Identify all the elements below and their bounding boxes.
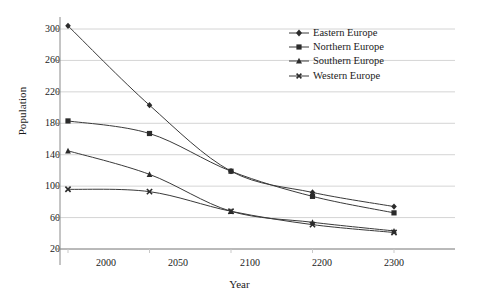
- legend-label: Western Europe: [313, 69, 380, 83]
- legend-marker-cross-icon: [288, 70, 310, 82]
- series-line-southern-europe: [68, 151, 394, 231]
- data-point-southern-europe: [147, 171, 153, 177]
- chart-legend: Eastern Europe Northern Europe Southern …: [288, 26, 384, 83]
- legend-marker-triangle-icon: [288, 55, 310, 67]
- legend-item-eastern-europe: Eastern Europe: [288, 26, 384, 40]
- legend-marker-square-icon: [288, 41, 310, 53]
- data-point-northern-europe: [228, 169, 233, 174]
- legend-label: Northern Europe: [313, 40, 384, 54]
- data-point-northern-europe: [310, 194, 315, 199]
- data-point-eastern-europe: [391, 203, 397, 209]
- legend-item-southern-europe: Southern Europe: [288, 54, 384, 68]
- data-point-northern-europe: [391, 210, 396, 215]
- legend-item-northern-europe: Northern Europe: [288, 40, 384, 54]
- population-line-chart: Population Year 300 260 220 180 140 100 …: [0, 0, 479, 305]
- data-point-northern-europe: [65, 118, 70, 123]
- legend-label: Southern Europe: [313, 54, 384, 68]
- data-point-northern-europe: [147, 131, 152, 136]
- legend-label: Eastern Europe: [313, 26, 377, 40]
- plot-area: [0, 0, 479, 305]
- data-point-southern-europe: [65, 148, 71, 154]
- legend-item-western-europe: Western Europe: [288, 69, 384, 83]
- legend-marker-diamond-icon: [288, 27, 310, 39]
